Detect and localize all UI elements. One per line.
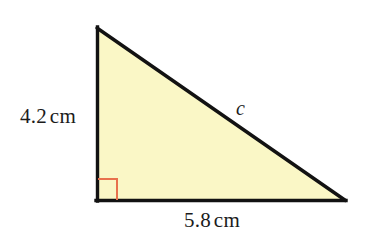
horizontal-side-label: 5.8cm — [184, 210, 240, 231]
horizontal-side-value: 5.8 — [184, 208, 211, 232]
hypotenuse-label: c — [236, 98, 245, 118]
right-triangle-figure: 4.2cm 5.8cm c — [0, 0, 369, 242]
vertical-side-value: 4.2 — [20, 104, 47, 128]
horizontal-side-unit: cm — [214, 208, 240, 232]
vertical-side-label: 4.2cm — [20, 106, 76, 127]
vertical-side-unit: cm — [50, 104, 76, 128]
